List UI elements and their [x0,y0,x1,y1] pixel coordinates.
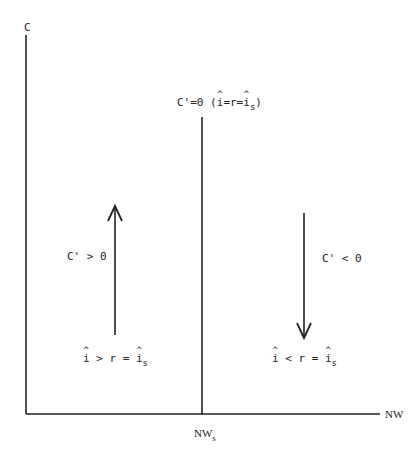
left-i-hat-s: i [136,353,143,364]
left-i-hat: i [83,353,90,364]
right-condition-label: i < r = is [272,353,337,364]
up-arrow-icon [108,206,122,335]
steady-state-suffix: ) [255,96,262,109]
i-hat-s: i [243,97,250,108]
left-growth-label: C' > 0 [67,251,107,262]
left-cond-subscript: s [143,358,148,368]
right-cond-mid: < r = [279,352,325,365]
left-cond-mid: > r = [90,352,136,365]
right-i-hat-s: i [325,353,332,364]
x-tick-subscript: s [212,433,216,443]
right-cond-subscript: s [332,358,337,368]
x-tick-text: NW [194,427,212,439]
y-axis-label: C [24,22,31,33]
x-axis-label: NW [385,409,403,420]
right-i-hat: i [272,353,279,364]
down-arrow-icon [297,213,311,338]
steady-state-subscript: s [250,102,255,112]
i-hat: i [217,97,224,108]
right-growth-label: C' < 0 [322,253,362,264]
steady-state-label: C'=0 (i=r=is) [177,97,262,108]
phase-diagram [0,0,420,457]
x-tick-label: NWs [194,428,216,439]
steady-state-prefix: C'=0 ( [177,96,217,109]
left-condition-label: i > r = is [83,353,148,364]
steady-state-mid: =r= [223,96,243,109]
